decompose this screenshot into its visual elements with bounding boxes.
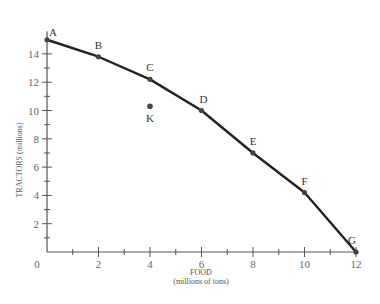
point-label: C [146,61,153,73]
frontier-line [47,40,356,252]
point-label: E [250,135,257,147]
axes [47,31,359,252]
x-axis-title: FOOD [190,268,212,277]
x-tick-label: 10 [299,258,311,270]
y-tick-label: 10 [28,105,40,117]
data-points: ABCDEFGK [44,26,358,255]
x-tick-label: 12 [351,258,362,270]
point-label: A [49,26,57,38]
y-tick-label: 4 [34,189,40,201]
y-tick-label: 14 [28,48,40,60]
ppf-chart: 0246810122468101214 ABCDEFGK FOOD (milli… [0,0,380,304]
point-b [96,54,101,59]
x-tick-label: 0 [34,258,40,270]
x-tick-label: 4 [147,258,153,270]
y-tick-label: 12 [28,76,39,88]
point-label: K [146,112,154,124]
point-e [250,150,255,155]
point-g [353,249,358,254]
x-tick-label: 2 [96,258,102,270]
point-label: F [301,175,307,187]
y-axis-title: TRACTORS (millions) [15,122,24,198]
point-d [199,108,204,113]
y-tick-label: 8 [34,133,40,145]
point-label: B [95,39,102,51]
point-c [147,77,152,82]
point-a [44,37,49,42]
point-f [302,190,307,195]
axis-ticks: 0246810122468101214 [28,48,362,270]
point-k [147,103,153,109]
x-axis-subtitle: (millions of tons) [173,277,229,286]
y-tick-label: 2 [34,218,40,230]
x-tick-label: 8 [250,258,256,270]
point-label: D [200,93,208,105]
point-label: G [348,234,356,246]
y-tick-label: 6 [34,161,40,173]
